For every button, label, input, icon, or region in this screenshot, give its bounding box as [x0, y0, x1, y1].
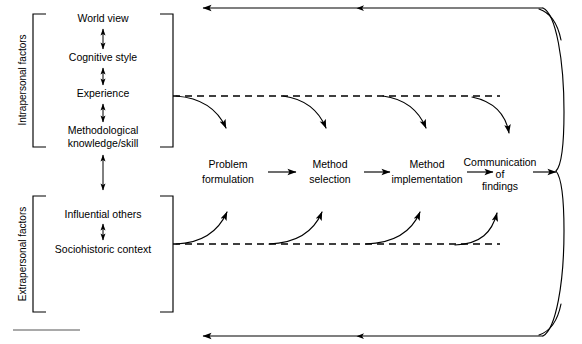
influence-arrow-top-1 — [176, 96, 226, 128]
influence-arrow-bottom-2 — [269, 212, 322, 244]
extrapersonal-group-label: Extrapersonal factors — [17, 207, 28, 302]
extrapersonal-group: Extrapersonal factors Influential others… — [17, 196, 173, 312]
diagram-canvas: Intrapersonal factors World view Cogniti… — [0, 0, 582, 344]
feedback-loop-bottom — [203, 304, 561, 339]
influence-arrow-top-4 — [472, 97, 509, 133]
intrapersonal-item-experience: Experience — [77, 87, 130, 99]
extrapersonal-item-influential-others: Influential others — [64, 208, 141, 220]
influence-arrow-bottom-4 — [455, 213, 497, 245]
process-step-2-line2: selection — [309, 173, 351, 185]
intrapersonal-group: Intrapersonal factors World view Cogniti… — [17, 12, 173, 149]
process-step-4-line3: findings — [482, 180, 518, 192]
process-step-2-line1: Method — [312, 158, 347, 170]
lower-influence-group — [173, 212, 500, 245]
intrapersonal-item-methodological-line1: Methodological — [68, 124, 139, 136]
extrapersonal-right-bracket — [160, 196, 173, 312]
influence-arrow-top-2 — [283, 96, 326, 128]
feedback-bottom-corner — [539, 304, 561, 335]
intrapersonal-left-bracket — [33, 14, 46, 147]
intrapersonal-item-world-view: World view — [77, 12, 129, 24]
process-step-1-line2: formulation — [202, 173, 254, 185]
process-step-4-line1: Communication — [464, 156, 537, 168]
influence-arrow-bottom-1 — [176, 212, 227, 244]
process-step-1-line1: Problem — [208, 158, 247, 170]
feedback-top-corner — [539, 9, 561, 40]
intrapersonal-item-cognitive-style: Cognitive style — [69, 51, 137, 63]
influence-arrow-top-3 — [383, 96, 426, 128]
extrapersonal-left-bracket — [33, 196, 46, 312]
process-step-3-line1: Method — [409, 158, 444, 170]
diagram-svg: Intrapersonal factors World view Cogniti… — [0, 0, 582, 344]
process-step-4-line2: of — [496, 168, 505, 180]
process-step-3-line2: implementation — [391, 173, 462, 185]
process-flow-row: Problem formulation Method selection Met… — [202, 156, 556, 192]
intrapersonal-item-methodological-line2: knowledge/skill — [68, 137, 139, 149]
influence-arrow-bottom-3 — [366, 212, 420, 244]
extrapersonal-item-sociohistoric-context: Sociohistoric context — [55, 243, 151, 255]
intrapersonal-group-label: Intrapersonal factors — [17, 34, 28, 125]
upper-influence-group — [173, 96, 509, 133]
feedback-loop-top — [203, 5, 561, 40]
intrapersonal-right-bracket — [160, 14, 173, 147]
